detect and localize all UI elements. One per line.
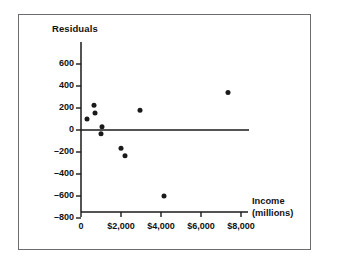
x-axis-title: Income (millions) xyxy=(252,196,293,219)
y-tick-label: –200 xyxy=(34,146,74,156)
x-axis-title-line2: (millions) xyxy=(252,208,293,220)
data-point xyxy=(92,103,97,108)
axes-group xyxy=(81,42,248,212)
x-axis-title-line1: Income xyxy=(252,196,293,208)
data-points-group xyxy=(85,90,231,198)
data-point xyxy=(162,194,167,199)
x-tick-label: $8,000 xyxy=(216,221,266,231)
data-point xyxy=(99,131,104,136)
y-tick-label: 200 xyxy=(34,102,74,112)
data-point xyxy=(226,90,231,95)
y-tick-label: –400 xyxy=(34,168,74,178)
data-point xyxy=(100,124,105,129)
residual-plot-figure: Residuals Income (millions) 6004002000–2… xyxy=(0,0,339,264)
data-point xyxy=(93,110,98,115)
data-point xyxy=(138,108,143,113)
y-tick-label: 600 xyxy=(34,58,74,68)
y-axis-title: Residuals xyxy=(52,23,98,34)
y-tick-label: –600 xyxy=(34,190,74,200)
y-tick-label: 0 xyxy=(34,124,74,134)
data-point xyxy=(123,153,128,158)
data-point xyxy=(85,117,90,122)
y-tick-label: 400 xyxy=(34,80,74,90)
tick-marks-group xyxy=(76,64,241,218)
data-point xyxy=(119,146,124,151)
